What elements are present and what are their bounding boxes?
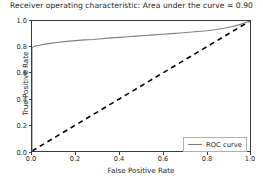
x-tick-label-3: 0.6 (150, 155, 176, 163)
x-tick-label-5: 1.0 (237, 155, 263, 163)
chart-title: Receiver operating characteristic: Area … (0, 1, 263, 10)
y-axis-label: True Positive Rate (21, 18, 30, 150)
chance-diagonal-line (32, 21, 250, 151)
legend-line-icon (188, 144, 202, 145)
x-tick-label-2: 0.4 (106, 155, 132, 163)
roc-chart-figure: Receiver operating characteristic: Area … (0, 0, 263, 184)
x-tick-label-4: 0.8 (194, 155, 220, 163)
plot-area (31, 20, 251, 152)
x-tick-label-0: 0.0 (18, 155, 44, 163)
plot-canvas (32, 21, 250, 151)
x-tick-label-1: 0.2 (62, 155, 88, 163)
chart-legend: ROC curve (183, 137, 247, 152)
legend-entry-label: ROC curve (206, 141, 242, 149)
x-axis-label: False Positive Rate (31, 166, 251, 175)
